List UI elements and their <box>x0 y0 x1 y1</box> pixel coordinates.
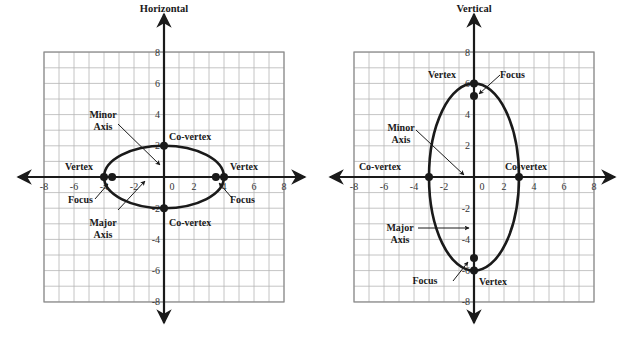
label-co-vertex-left: Co-vertex <box>359 161 401 172</box>
label-vertex-left: Vertex <box>65 161 93 172</box>
x-tick-label: -8 <box>350 181 358 192</box>
graph-title: Horizontal <box>140 3 188 14</box>
y-tick-label: -4 <box>152 234 160 245</box>
label-minor-axis: MinorAxis <box>89 109 117 132</box>
x-tick-label: 2 <box>502 181 507 192</box>
y-tick-label: 8 <box>465 47 470 58</box>
co-vertex-left-point <box>425 173 433 181</box>
label-focus-left: Focus <box>68 194 93 205</box>
x-tick-label: 8 <box>282 181 287 192</box>
graph-title: Vertical <box>456 3 491 14</box>
graph-vertical: Vertical-8-6-4-2024688642-2-4-6-8VertexF… <box>330 3 615 323</box>
x-tick-label: 0 <box>480 181 485 192</box>
label-focus-top: Focus <box>500 69 525 80</box>
y-tick-label: 4 <box>465 109 470 120</box>
focus-bottom-point <box>470 254 478 262</box>
label-vertex-bottom: Vertex <box>479 276 507 287</box>
y-tick-label: -8 <box>462 296 470 307</box>
x-tick-label: -2 <box>440 181 448 192</box>
label-co-vertex-top: Co-vertex <box>169 131 211 142</box>
vertex-right-point <box>220 173 228 181</box>
y-tick-label: -2 <box>462 203 470 214</box>
label-major-axis: MajorAxis <box>89 217 117 240</box>
x-tick-label: 0 <box>170 181 175 192</box>
x-tick-label: 6 <box>562 181 567 192</box>
x-tick-label: 4 <box>532 181 537 192</box>
x-tick-label: -4 <box>410 181 418 192</box>
label-focus-right: Focus <box>230 194 255 205</box>
co-vertex-bottom-point <box>160 204 168 212</box>
y-tick-label: 6 <box>155 78 160 89</box>
ellipse-diagrams: Horizontal-8-6-4-2024688642-2-4-6-8Minor… <box>0 0 631 337</box>
y-tick-label: -6 <box>152 265 160 276</box>
label-vertex-top: Vertex <box>428 69 456 80</box>
y-tick-label: -8 <box>152 296 160 307</box>
focus-right-point <box>212 173 220 181</box>
graph-horizontal: Horizontal-8-6-4-2024688642-2-4-6-8Minor… <box>18 3 305 323</box>
label-co-vertex-right: Co-vertex <box>505 161 547 172</box>
focus-left-point <box>108 173 116 181</box>
co-vertex-top-point <box>160 142 168 150</box>
y-tick-label: -4 <box>462 234 470 245</box>
y-tick-label: 4 <box>155 109 160 120</box>
y-tick-label: 8 <box>155 47 160 58</box>
x-tick-label: -6 <box>70 181 78 192</box>
label-co-vertex-bottom: Co-vertex <box>169 217 211 228</box>
x-tick-label: -8 <box>40 181 48 192</box>
x-tick-label: 8 <box>592 181 597 192</box>
minor-axis-pointer <box>416 130 464 175</box>
co-vertex-right-point <box>515 173 523 181</box>
vertex-top-point <box>470 79 478 87</box>
y-tick-label: 2 <box>465 140 470 151</box>
label-major-axis: MajorAxis <box>386 222 414 245</box>
focus-top-point <box>470 92 478 100</box>
label-vertex-right: Vertex <box>230 161 258 172</box>
x-tick-label: -6 <box>380 181 388 192</box>
vertex-left-point <box>100 173 108 181</box>
label-minor-axis: MinorAxis <box>387 122 415 145</box>
vertex-bottom-point <box>470 267 478 275</box>
x-tick-label: 2 <box>192 181 197 192</box>
label-focus-bottom: Focus <box>413 275 438 286</box>
x-tick-label: 6 <box>252 181 257 192</box>
